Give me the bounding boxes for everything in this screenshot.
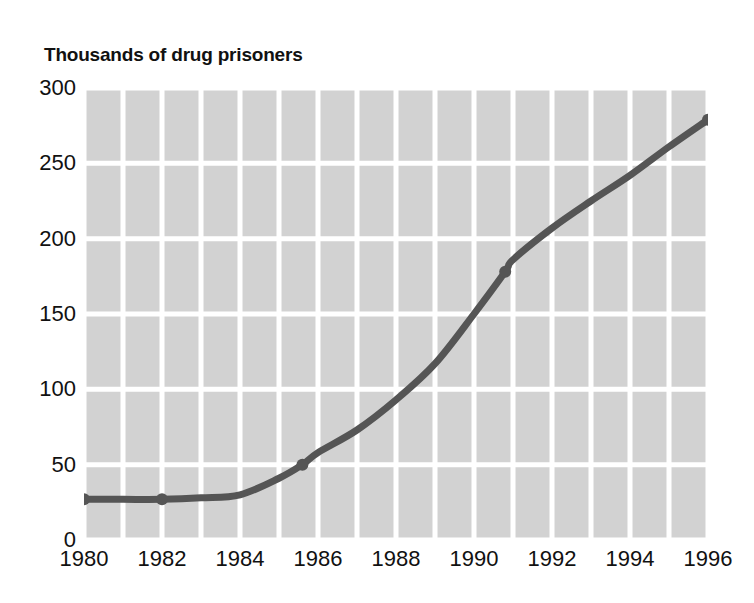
y-axis-tick-label: 50: [16, 454, 76, 476]
plot-area: [84, 88, 708, 540]
x-axis-tick-label: 1986: [278, 548, 358, 570]
y-axis-tick-label: 200: [16, 228, 76, 250]
chart-figure: Thousands of drug prisoners 050100150200…: [0, 0, 754, 603]
x-axis-tick-label: 1982: [122, 548, 202, 570]
y-axis-tick-label: 300: [16, 77, 76, 99]
data-series-line: [84, 88, 708, 540]
y-axis-tick-label: 150: [16, 303, 76, 325]
x-axis-tick-label: 1994: [590, 548, 670, 570]
x-axis-tick-label: 1984: [200, 548, 280, 570]
x-axis-tick-label: 1980: [44, 548, 124, 570]
y-axis-tick-label: 100: [16, 378, 76, 400]
x-axis-tick-label: 1988: [356, 548, 436, 570]
x-axis: 198019821984198619881990199219941996: [84, 548, 708, 578]
page-title: Thousands of drug prisoners: [44, 44, 303, 66]
x-axis-tick-label: 1992: [512, 548, 592, 570]
x-axis-tick-label: 1990: [434, 548, 514, 570]
x-axis-tick-label: 1996: [668, 548, 748, 570]
y-axis: 050100150200250300: [8, 0, 76, 603]
y-axis-tick-label: 250: [16, 152, 76, 174]
